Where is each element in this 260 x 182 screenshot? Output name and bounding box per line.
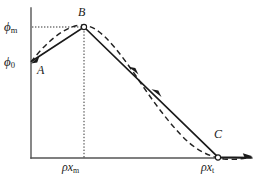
rho-xm-symbol: ρx — [62, 160, 73, 174]
x-tick-label-rho-xt: ρxt — [201, 161, 214, 175]
rho-xm-subscript: m — [73, 166, 79, 175]
phi-0-subscript: 0 — [11, 60, 15, 70]
figure-root: ϕm ϕ0 A B C ρxm ρxt — [0, 0, 260, 182]
potential-profile-chart — [0, 0, 260, 182]
phi-0-symbol: ϕ — [4, 54, 11, 69]
marker-b-open-circle — [81, 24, 86, 29]
rho-xt-symbol: ρx — [201, 160, 212, 174]
phi-m-symbol: ϕ — [4, 19, 11, 34]
point-label-a: A — [37, 64, 44, 76]
marker-c-open-circle — [215, 155, 220, 160]
phi-m-subscript: m — [11, 25, 18, 35]
rho-xt-subscript: t — [212, 166, 214, 175]
y-tick-label-phi-m: ϕm — [4, 20, 17, 34]
y-tick-label-phi-0: ϕ0 — [4, 55, 15, 69]
point-label-b: B — [78, 6, 85, 18]
x-tick-label-rho-xm: ρxm — [62, 161, 79, 175]
point-label-c: C — [214, 128, 222, 140]
